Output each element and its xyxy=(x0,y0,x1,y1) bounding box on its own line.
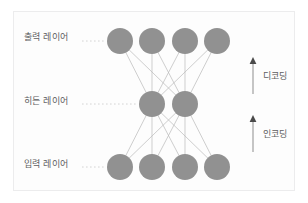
node-input-3 xyxy=(172,154,198,180)
annotation-label-encoding: 인코딩 xyxy=(263,130,288,139)
annotation-label-decoding: 디코딩 xyxy=(263,72,288,81)
arrow-up-icon-encoding xyxy=(250,115,257,152)
node-input-1 xyxy=(107,154,133,180)
node-hidden-1 xyxy=(139,91,165,117)
node-output-3 xyxy=(172,28,198,54)
layer-label-output: 출력 레이어 xyxy=(24,33,68,42)
node-output-1 xyxy=(107,28,133,54)
flow-arrows xyxy=(250,57,257,152)
node-output-2 xyxy=(139,28,165,54)
node-hidden-2 xyxy=(172,91,198,117)
neuron-nodes xyxy=(107,28,230,180)
layer-label-input: 입력 레이어 xyxy=(24,160,68,169)
node-input-4 xyxy=(204,154,230,180)
arrow-head xyxy=(250,115,257,122)
node-input-2 xyxy=(139,154,165,180)
arrow-up-icon-decoding xyxy=(250,57,257,94)
layer-label-hidden: 히든 레이어 xyxy=(24,97,68,106)
autoencoder-diagram: 출력 레이어 히든 레이어 입력 레이어 디코딩 인코딩 xyxy=(0,0,308,203)
node-output-4 xyxy=(204,28,230,54)
arrow-head xyxy=(250,57,257,64)
